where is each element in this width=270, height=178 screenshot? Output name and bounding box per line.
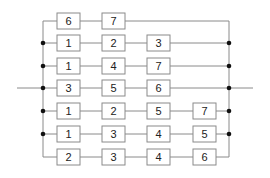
block-label: 4 <box>155 151 161 163</box>
block-label: 6 <box>155 82 161 94</box>
block: 4 <box>147 149 170 165</box>
junction-dot <box>41 64 46 69</box>
junction-dot <box>41 86 46 91</box>
block: 7 <box>193 103 216 119</box>
block-label: 2 <box>110 105 116 117</box>
block: 1 <box>57 35 80 51</box>
block: 2 <box>57 149 80 165</box>
block: 1 <box>57 103 80 119</box>
block-label: 5 <box>155 105 161 117</box>
block-label: 1 <box>65 60 71 72</box>
block-label: 1 <box>65 37 71 49</box>
block-label: 7 <box>201 105 207 117</box>
block: 3 <box>57 80 80 96</box>
block: 1 <box>57 58 80 74</box>
block: 6 <box>147 80 170 96</box>
block: 5 <box>147 103 170 119</box>
junction-dot <box>41 41 46 46</box>
block: 4 <box>147 126 170 142</box>
block-label: 3 <box>110 128 116 140</box>
reliability-block-diagram: 67123147356125713452346 <box>0 0 270 178</box>
junction-dot <box>227 64 232 69</box>
junction-dot <box>41 132 46 137</box>
block-label: 3 <box>110 151 116 163</box>
block-label: 5 <box>201 128 207 140</box>
junction-dot <box>41 109 46 114</box>
block: 7 <box>147 58 170 74</box>
block-label: 3 <box>65 82 71 94</box>
block-label: 2 <box>65 151 71 163</box>
block: 7 <box>102 13 125 29</box>
block-label: 1 <box>65 128 71 140</box>
block-label: 4 <box>110 60 116 72</box>
junction-dot <box>227 132 232 137</box>
junction-dot <box>227 41 232 46</box>
block-label: 2 <box>110 37 116 49</box>
block-label: 5 <box>110 82 116 94</box>
block-label: 6 <box>65 15 71 27</box>
block: 2 <box>102 103 125 119</box>
block: 6 <box>193 149 216 165</box>
junction-dot <box>227 109 232 114</box>
block: 5 <box>193 126 216 142</box>
block: 3 <box>147 35 170 51</box>
block-label: 6 <box>201 151 207 163</box>
block: 5 <box>102 80 125 96</box>
block-label: 1 <box>65 105 71 117</box>
block: 6 <box>57 13 80 29</box>
block-label: 4 <box>155 128 161 140</box>
block-label: 3 <box>155 37 161 49</box>
block: 3 <box>102 126 125 142</box>
block-label: 7 <box>155 60 161 72</box>
block: 3 <box>102 149 125 165</box>
junction-dot <box>227 86 232 91</box>
block: 2 <box>102 35 125 51</box>
block-label: 7 <box>110 15 116 27</box>
block: 1 <box>57 126 80 142</box>
block: 4 <box>102 58 125 74</box>
